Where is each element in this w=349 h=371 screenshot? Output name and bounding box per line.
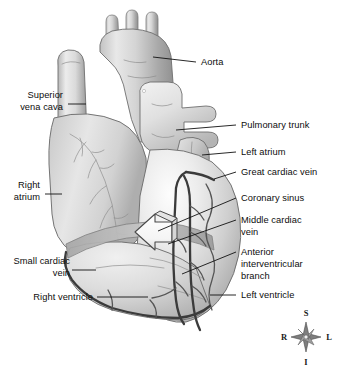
- label-small-cardiac-vein-line2: vein: [53, 268, 70, 278]
- pulmonary-trunk-highlight: [142, 89, 145, 92]
- label-anterior-interventricular-line3: branch: [241, 271, 270, 281]
- label-left-ventricle: Left ventricle: [241, 290, 294, 300]
- label-right-atrium-line2: atrium: [14, 192, 40, 202]
- label-great-cardiac-vein: Great cardiac vein: [241, 167, 317, 177]
- label-pulmonary-trunk: Pulmonary trunk: [241, 120, 310, 130]
- heart-diagram-svg: Aorta Superior vena cava Pulmonary trunk…: [0, 0, 349, 371]
- label-anterior-interventricular-line2: interventricular: [241, 259, 303, 269]
- label-anterior-interventricular-line1: Anterior: [241, 247, 274, 257]
- label-superior-vena-cava-line2: vena cava: [20, 102, 64, 112]
- label-middle-cardiac-vein-line2: vein: [241, 227, 258, 237]
- compass-label-left: L: [326, 332, 332, 342]
- label-aorta: Aorta: [201, 57, 224, 67]
- label-right-ventricle: Right ventricle: [33, 292, 93, 302]
- label-left-atrium: Left atrium: [241, 147, 286, 157]
- compass-label-right: R: [281, 332, 288, 342]
- label-middle-cardiac-vein-line1: Middle cardiac: [241, 215, 302, 225]
- label-superior-vena-cava-line1: Superior: [27, 90, 63, 100]
- heart-anatomy-figure: Aorta Superior vena cava Pulmonary trunk…: [0, 0, 349, 371]
- compass-label-superior: S: [304, 308, 309, 318]
- label-small-cardiac-vein-line1: Small cardiac: [14, 256, 71, 266]
- compass-center: [304, 335, 308, 339]
- label-coronary-sinus: Coronary sinus: [241, 193, 305, 203]
- label-right-atrium-line1: Right: [18, 180, 40, 190]
